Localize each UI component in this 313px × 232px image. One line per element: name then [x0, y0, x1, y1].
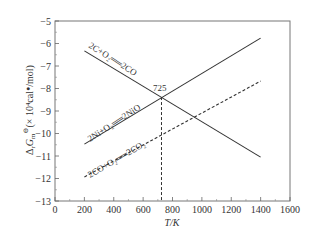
y-tick-label: −13 — [35, 196, 51, 207]
x-tick-label: 800 — [165, 204, 180, 215]
y-tick-label: −7 — [40, 61, 51, 72]
gibbs-energy-chart: −5−6−7−8−9−10−11−12−13 02004006008001000… — [0, 0, 313, 232]
x-tick-label: 1600 — [280, 204, 300, 215]
x-tick-label: 600 — [136, 204, 151, 215]
series-line-0 — [84, 51, 260, 157]
y-tick-label: −6 — [40, 38, 51, 49]
x-axis-title: T/K — [164, 217, 180, 228]
x-tick-label: 1400 — [251, 204, 271, 215]
label-2co-o2-2co2: 2CO+O₂══2CO₂ — [86, 139, 147, 180]
y-tick-label: −10 — [35, 128, 51, 139]
y-axis-title: ΔrGm⊖(× 10⁴cal●/mol) — [22, 65, 37, 155]
y-tick-label: −8 — [40, 83, 51, 94]
y-tick-label: −9 — [40, 106, 51, 117]
x-tick-label: 200 — [77, 204, 92, 215]
x-tick-label: 0 — [53, 204, 58, 215]
label-2ni-o2-2nio: 2Ni+O₂══2NiO — [86, 102, 143, 144]
x-tick-label: 1200 — [221, 204, 241, 215]
x-axis-ticks: 02004006008001000120014001600 — [53, 197, 301, 215]
y-tick-label: −12 — [35, 173, 51, 184]
x-tick-label: 1000 — [192, 204, 212, 215]
label-intersection-725: 725 — [153, 83, 167, 93]
x-tick-label: 400 — [106, 204, 121, 215]
y-tick-label: −5 — [40, 16, 51, 27]
label-2c-o2-2co: 2C+O₂══2CO — [87, 40, 139, 78]
y-tick-label: −11 — [36, 151, 51, 162]
